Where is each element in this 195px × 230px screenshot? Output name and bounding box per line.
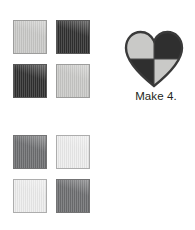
fabric-swatch-top-left (13, 135, 47, 169)
fabric-swatch-bottom-left (13, 64, 47, 98)
fabric-swatch-top-left (13, 20, 47, 54)
fabric-swatch-grid (13, 135, 90, 213)
fabric-swatch-bottom-right (56, 179, 90, 213)
fabric-swatch-grid (13, 20, 90, 98)
instruction-row-2: Make 4. (0, 115, 195, 230)
fabric-swatch-top-right (56, 135, 90, 169)
heart-block-diagram (124, 30, 184, 88)
fabric-swatch-bottom-left (13, 179, 47, 213)
make-quantity-caption: Make 4. (116, 90, 195, 102)
heart-block-icon (124, 30, 184, 88)
instruction-sheet: Make 4. (0, 0, 195, 230)
fabric-swatch-top-right (56, 20, 90, 54)
instruction-row-1: Make 4. (0, 0, 195, 115)
fabric-swatch-bottom-right (56, 64, 90, 98)
